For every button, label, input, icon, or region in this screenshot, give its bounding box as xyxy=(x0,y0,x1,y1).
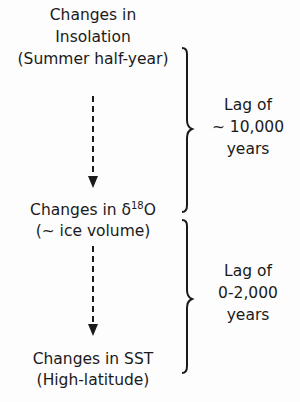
arrowhead-icon xyxy=(88,324,98,336)
brace-upper-icon xyxy=(182,48,192,212)
arrowhead-icon xyxy=(88,176,98,188)
brace-lower-icon xyxy=(182,220,192,373)
dashed-arrow-2 xyxy=(88,246,98,336)
dashed-arrow-1 xyxy=(88,96,98,188)
diagram-graphics xyxy=(0,0,300,402)
